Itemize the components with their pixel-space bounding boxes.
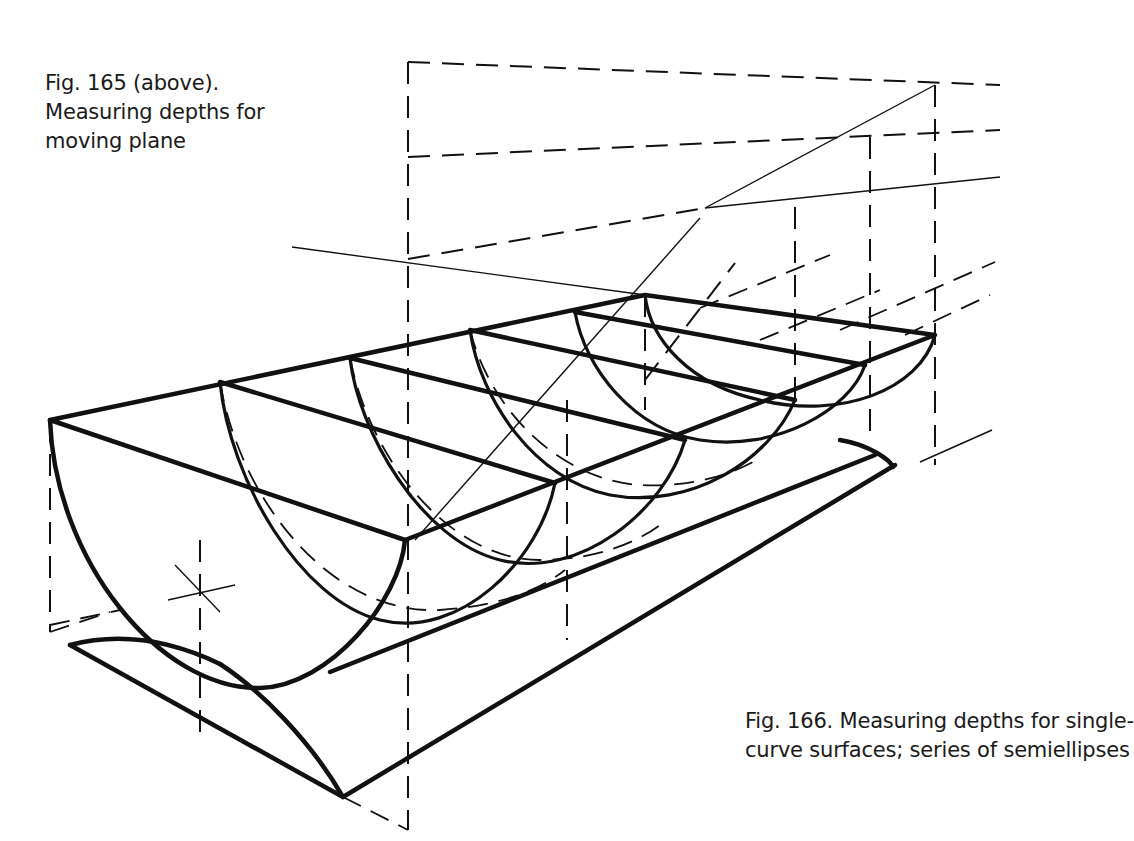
caption-line: curve surfaces; series of semiellipses: [745, 736, 1134, 765]
center-cross-mark: [168, 565, 235, 612]
trough-top-frame: [50, 295, 935, 540]
caption-line: Fig. 165 (above).: [45, 69, 265, 98]
figure-165-caption: Fig. 165 (above). Measuring depths for m…: [45, 69, 265, 156]
hidden-dashed-curves: [50, 330, 760, 625]
caption-line: Fig. 166. Measuring depths for single-: [745, 707, 1134, 736]
caption-line: moving plane: [45, 127, 265, 156]
figure-166-caption: Fig. 166. Measuring depths for single- c…: [745, 707, 1134, 765]
caption-line: Measuring depths for: [45, 98, 265, 127]
trough-base-prism: [50, 440, 895, 830]
